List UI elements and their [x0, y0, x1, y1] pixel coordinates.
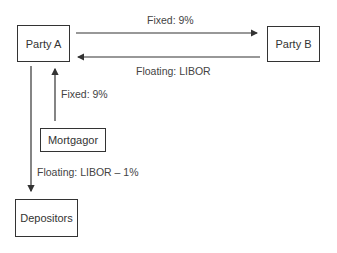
- party-b-label: Party B: [275, 38, 311, 50]
- mortgagor-label: Mortgagor: [48, 134, 98, 146]
- node-party-a: Party A: [17, 25, 70, 62]
- node-mortgagor: Mortgagor: [40, 128, 106, 152]
- flow-label-a-to-depositors: Floating: LIBOR – 1%: [37, 166, 139, 178]
- depositors-label: Depositors: [20, 212, 73, 224]
- flow-label-mortgagor-to-a: Fixed: 9%: [61, 88, 108, 100]
- node-party-b: Party B: [267, 26, 320, 62]
- node-depositors: Depositors: [15, 199, 78, 237]
- party-a-label: Party A: [26, 38, 61, 50]
- flow-label-a-to-b: Fixed: 9%: [147, 14, 194, 26]
- flow-label-b-to-a: Floating: LIBOR: [136, 65, 211, 77]
